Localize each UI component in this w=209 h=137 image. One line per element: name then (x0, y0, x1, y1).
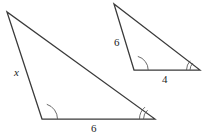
small-triangle (114, 4, 200, 70)
small-triangle-angle-arc-single (138, 56, 148, 70)
small-triangle-left-side-label: 6 (114, 37, 120, 48)
geometry-figure: x 6 6 4 (0, 0, 209, 137)
large-triangle-angle-arc-single (47, 104, 58, 119)
figure-canvas (0, 0, 209, 137)
large-triangle-base-label: 6 (91, 123, 97, 134)
small-triangle-angle-arc-inner (190, 63, 193, 70)
small-triangle-base-label: 4 (162, 74, 168, 85)
small-triangle-outline (114, 4, 200, 70)
large-triangle-left-side-label: x (14, 67, 19, 78)
